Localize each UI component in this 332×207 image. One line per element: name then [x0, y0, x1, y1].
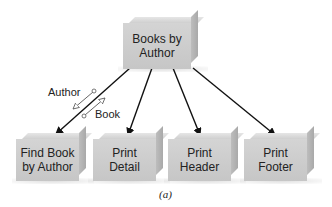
- module-label-line2: Footer: [258, 160, 293, 174]
- module-print-header[interactable]: Print Header: [168, 133, 238, 181]
- box-side-face: [79, 126, 86, 175]
- module-label-line1: Print: [258, 146, 293, 160]
- module-find-book-by-author[interactable]: Find Book by Author: [16, 133, 86, 181]
- box-side-face: [231, 126, 238, 175]
- box-side-face: [191, 10, 198, 63]
- arrow-to-find-book: [56, 68, 130, 134]
- box-side-face: [307, 126, 314, 175]
- box-front-face: Print Footer: [244, 139, 307, 181]
- module-print-footer[interactable]: Print Footer: [244, 133, 314, 181]
- module-label-line2: Header: [180, 160, 219, 174]
- arrow-to-print-detail: [128, 68, 152, 135]
- module-label-line2: by Author: [20, 160, 74, 174]
- couple-label-author: Author: [48, 86, 80, 98]
- module-label-line2: Author: [132, 46, 181, 60]
- box-side-face: [156, 126, 163, 175]
- module-label-line1: Find Book: [20, 146, 74, 160]
- module-label-line1: Print: [109, 146, 140, 160]
- box-front-face: Print Detail: [93, 139, 156, 181]
- figure-caption: (a): [159, 188, 172, 200]
- box-front-face: Books by Author: [123, 23, 191, 69]
- arrow-to-print-header: [173, 68, 200, 135]
- module-label-line2: Detail: [109, 160, 140, 174]
- couple-label-book: Book: [95, 108, 120, 120]
- module-label-line1: Print: [180, 146, 219, 160]
- module-print-detail[interactable]: Print Detail: [93, 133, 163, 181]
- arrow-to-print-footer: [193, 68, 275, 135]
- module-books-by-author[interactable]: Books by Author: [123, 17, 198, 69]
- module-label-line1: Books by: [132, 32, 181, 46]
- box-front-face: Find Book by Author: [16, 139, 79, 181]
- box-front-face: Print Header: [168, 139, 231, 181]
